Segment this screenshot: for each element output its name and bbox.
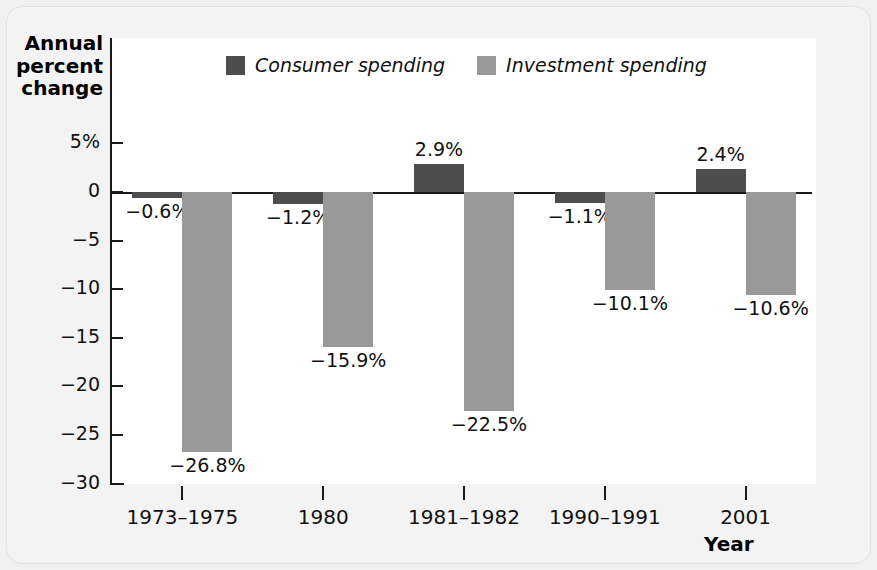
bar[interactable] (464, 192, 514, 411)
y-axis-title: Annual percent change (8, 32, 103, 100)
y-axis-tick-label: −20 (20, 373, 100, 395)
y-axis-tick (112, 434, 123, 436)
y-axis-tick-label: −5 (20, 228, 100, 250)
y-axis-tick-label: 5% (20, 130, 100, 152)
legend-entry[interactable]: Investment spending (477, 54, 707, 76)
bar-value-label: −26.8% (147, 454, 267, 476)
y-axis-tick-label: 0 (20, 179, 100, 201)
x-axis-title: Year (704, 532, 754, 556)
legend-swatch-icon (226, 56, 245, 75)
y-axis-tick (112, 337, 123, 339)
y-axis-tick-label: −15 (20, 325, 100, 347)
y-axis-tick (112, 142, 123, 144)
x-axis-tick (181, 486, 183, 500)
y-axis-tick-label: −10 (20, 276, 100, 298)
y-axis-line (110, 38, 112, 485)
y-axis-title-line-3: change (8, 77, 103, 100)
x-axis-category-label: 1981–1982 (384, 505, 544, 529)
x-axis-category-label: 2001 (666, 505, 826, 529)
y-axis-title-line-1: Annual (8, 32, 103, 55)
bar[interactable] (414, 164, 464, 192)
bar[interactable] (746, 192, 796, 295)
legend-label: Investment spending (506, 54, 707, 76)
y-axis-tick (112, 288, 123, 290)
bar[interactable] (323, 192, 373, 347)
bar-value-label: 2.9% (379, 138, 499, 160)
bar-value-label: −10.1% (570, 292, 690, 314)
chart-page: Annual percent change 5%0−5−10−15−20−25−… (0, 0, 877, 570)
bar-value-label: −22.5% (429, 413, 549, 435)
x-axis-tick (322, 486, 324, 500)
legend-entry[interactable]: Consumer spending (226, 54, 445, 76)
y-axis-tick (112, 191, 123, 193)
bar-value-label: −10.6% (711, 297, 831, 319)
x-axis-category-label: 1990–1991 (525, 505, 685, 529)
bar[interactable] (182, 192, 232, 452)
bar-value-label: 2.4% (661, 143, 781, 165)
x-axis-category-label: 1980 (243, 505, 403, 529)
bar-value-label: −15.9% (288, 349, 408, 371)
x-axis-category-label: 1973–1975 (102, 505, 262, 529)
bar[interactable] (273, 192, 323, 204)
bar[interactable] (696, 169, 746, 192)
y-axis-tick (112, 385, 123, 387)
bar[interactable] (555, 192, 605, 203)
bar[interactable] (605, 192, 655, 290)
y-axis-tick (112, 483, 123, 485)
x-axis-tick (463, 486, 465, 500)
x-axis-tick (745, 486, 747, 500)
y-axis-tick-label: −30 (20, 471, 100, 493)
legend-label: Consumer spending (255, 54, 445, 76)
bar[interactable] (132, 192, 182, 198)
y-axis-title-line-2: percent (8, 55, 103, 78)
chart-legend: Consumer spendingInvestment spending (226, 54, 707, 76)
x-axis-tick (604, 486, 606, 500)
y-axis-tick-label: −25 (20, 422, 100, 444)
y-axis-tick (112, 240, 123, 242)
legend-swatch-icon (477, 56, 496, 75)
